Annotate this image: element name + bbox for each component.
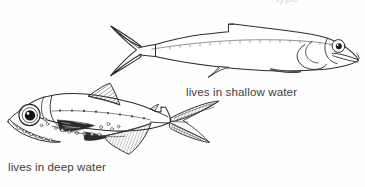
shallow-fish-pupil [336, 43, 342, 49]
caption-lives-in-shallow-water: lives in shallow water [186, 85, 297, 98]
deep-fish-caudal-mid-ray [171, 122, 188, 123]
shallow-fish-eye-highlight [337, 44, 339, 46]
caption-lives-in-deep-water: lives in deep water [8, 160, 106, 173]
deep-fish-adipose-fin [151, 104, 159, 111]
shallow-fish-body-outline [156, 24, 359, 71]
fish-comparison-figure: type lives in shallow water lives in dee… [0, 0, 365, 187]
shallow-water-fish-drawing [111, 24, 359, 77]
clipped-top-text: type [276, 0, 298, 4]
fish-illustration-svg [0, 0, 365, 187]
deep-fish-eye-highlight [27, 112, 30, 115]
shallow-fish-caudal-fin-lower [111, 54, 141, 75]
deep-fish-pupil [25, 110, 35, 120]
